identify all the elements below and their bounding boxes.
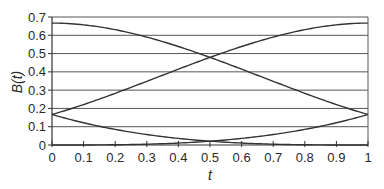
x-axis-title: t [208, 167, 213, 183]
x-tick-label: 0.7 [264, 150, 282, 165]
x-tick-label: 1 [364, 150, 371, 165]
x-tick-label: 0.5 [201, 150, 219, 165]
curve-b1t [52, 23, 368, 114]
bspline-basis-chart: 00.10.20.30.40.50.60.7 00.10.20.30.40.50… [0, 0, 384, 189]
y-axis-title: B(t) [9, 71, 25, 94]
curve-b3t [52, 115, 368, 145]
x-tick-label: 0 [48, 150, 55, 165]
curve-b0t [52, 115, 368, 145]
x-tick-label: 0.8 [296, 150, 314, 165]
curve-b2t [52, 23, 368, 114]
y-tick-labels: 00.10.20.30.40.50.60.7 [28, 10, 52, 153]
y-tick-label: 0.5 [28, 46, 46, 61]
y-tick-label: 0 [39, 138, 46, 153]
y-tick-label: 0.3 [28, 83, 46, 98]
x-tick-label: 0.1 [75, 150, 93, 165]
y-tick-label: 0.4 [28, 64, 46, 79]
x-tick-label: 0.3 [138, 150, 156, 165]
y-tick-label: 0.2 [28, 101, 46, 116]
y-tick-label: 0.6 [28, 28, 46, 43]
x-tick-label: 0.6 [233, 150, 251, 165]
x-tick-label: 0.4 [169, 150, 187, 165]
y-tick-label: 0.1 [28, 119, 46, 134]
x-tick-label: 0.2 [106, 150, 124, 165]
gridlines [52, 17, 368, 127]
x-tick-label: 0.9 [327, 150, 345, 165]
y-tick-label: 0.7 [28, 10, 46, 25]
